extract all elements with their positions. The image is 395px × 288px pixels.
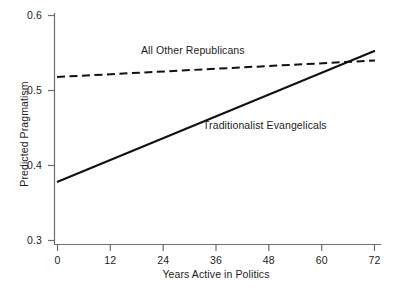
series-line-all-other-republicans — [57, 61, 375, 78]
x-tick-label-5: 60 — [316, 254, 328, 266]
series-label-all-other-republicans: All Other Republicans — [141, 44, 245, 56]
y-tick-label-3: 0.3 — [8, 234, 42, 246]
x-tick-label-4: 48 — [263, 254, 275, 266]
x-tick-label-3: 36 — [210, 254, 222, 266]
y-tick-label-0: 0.6 — [8, 9, 42, 21]
y-axis-title: Predicted Pragmatism — [18, 54, 30, 214]
x-axis-title: Years Active in Politics — [57, 268, 375, 280]
x-tick-label-1: 12 — [104, 254, 116, 266]
x-tick-label-6: 72 — [369, 254, 381, 266]
series-label-traditionalist-evangelicals: Traditionalist Evangelicals — [203, 119, 327, 131]
chart-figure: 0.6 0.5 0.4 0.3 0 12 24 36 48 60 72 Pred… — [0, 0, 395, 288]
y-axis-ticks — [48, 16, 55, 241]
x-tick-label-2: 24 — [157, 254, 169, 266]
x-tick-label-0: 0 — [55, 254, 61, 266]
series-line-traditionalist-evangelicals — [57, 51, 375, 182]
x-axis-ticks — [58, 245, 375, 252]
